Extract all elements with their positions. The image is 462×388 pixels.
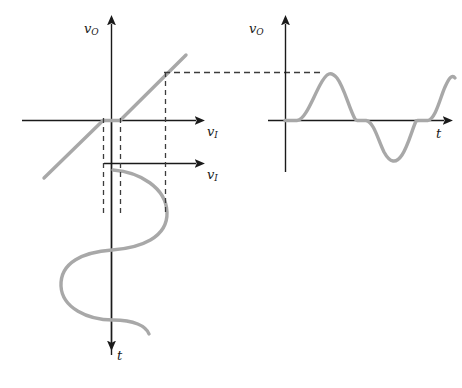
label-t-output: t <box>436 126 441 141</box>
output-waveform-curve <box>285 74 455 161</box>
label-t-input: t <box>117 348 122 363</box>
transfer-panel <box>22 24 320 355</box>
label-vi-transfer: vI <box>207 124 218 139</box>
label-vo-output: vO <box>249 21 264 36</box>
figure-root: vO vI vI t vO t <box>0 0 462 388</box>
input-sine-wave <box>61 170 167 334</box>
label-vo-transfer: vO <box>84 21 99 36</box>
label-vi-input: vI <box>207 167 218 182</box>
figure-canvas <box>0 0 462 388</box>
output-panel <box>268 24 455 172</box>
transfer-curve <box>44 55 186 178</box>
